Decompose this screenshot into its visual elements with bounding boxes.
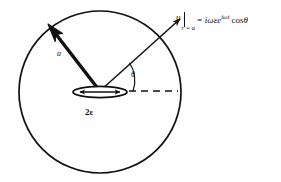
figure-root: a 2ε θ u r = a = iωεeiωtcosθ [0, 0, 281, 182]
equation-rhs-angle: θ [243, 15, 247, 25]
theta-angle-label: θ [131, 71, 135, 79]
equation-evaluation-bar: r = a [182, 12, 189, 28]
disc-thickness-label: 2ε [85, 108, 93, 117]
boundary-condition-equation: u r = a = iωεeiωtcosθ [176, 12, 248, 28]
equation-rhs: = iωεeiωtcosθ [197, 12, 248, 25]
radius-vector-label: a [57, 50, 61, 58]
equation-rhs-prefix: = iωεe [197, 15, 222, 25]
radius-vector-line [55, 33, 99, 90]
equation-rhs-suffix: cos [231, 15, 243, 25]
equation-evaluated-at: r = a [182, 24, 195, 31]
equation-row: u r = a = iωεeiωtcosθ [176, 12, 248, 28]
equation-rhs-exponent: iωt [221, 13, 229, 20]
equation-lhs-symbol: u [176, 12, 181, 22]
velocity-vector-line [101, 19, 180, 90]
